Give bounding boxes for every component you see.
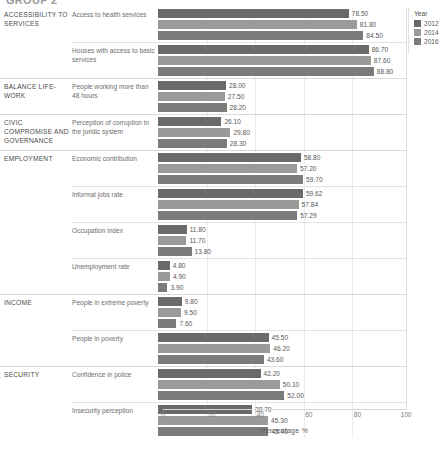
bar-2012[interactable] xyxy=(158,225,187,234)
bar-group: 78.5081.8084.50 xyxy=(158,7,406,42)
bar-2012[interactable] xyxy=(158,369,261,378)
bar-2014[interactable] xyxy=(158,20,357,29)
bar-row[interactable]: 28.00 xyxy=(158,80,406,90)
x-axis-tick: 40 xyxy=(257,411,264,418)
bar-row[interactable]: 84.50 xyxy=(158,30,406,40)
bar-2014[interactable] xyxy=(158,200,299,209)
bar-row[interactable]: 7.60 xyxy=(158,318,406,328)
legend-item-2014[interactable]: 2014 xyxy=(414,29,439,36)
bar-2012[interactable] xyxy=(158,81,226,90)
bar-value-label: 28.00 xyxy=(229,82,246,89)
bar-2016[interactable] xyxy=(158,175,303,184)
x-axis-tick: 80 xyxy=(354,411,361,418)
indicator-row: Confidence in police42.2050.1052.00 xyxy=(72,367,406,402)
dimension-group: ACCESSIBILITY TO SERVICESAccess to healt… xyxy=(0,7,406,78)
bar-row[interactable]: 11.80 xyxy=(158,224,406,234)
bar-row[interactable]: 26.10 xyxy=(158,116,406,126)
bar-2012[interactable] xyxy=(158,333,269,342)
bar-row[interactable]: 58.80 xyxy=(158,152,406,162)
legend-swatch-icon xyxy=(414,38,421,45)
bar-row[interactable]: 4.80 xyxy=(158,260,406,270)
indicator-row: People in extreme poverty9.809.507.60 xyxy=(72,295,406,330)
indicator-label: Confidence in police xyxy=(72,367,158,402)
bar-2016[interactable] xyxy=(158,139,227,148)
bar-2014[interactable] xyxy=(158,56,371,65)
bar-row[interactable]: 9.80 xyxy=(158,296,406,306)
dimension-label: INCOME xyxy=(0,295,72,366)
bar-row[interactable]: 50.10 xyxy=(158,379,406,389)
bar-row[interactable]: 28.30 xyxy=(158,138,406,148)
bar-row[interactable]: 28.20 xyxy=(158,102,406,112)
bar-row[interactable]: 4.90 xyxy=(158,271,406,281)
bar-row[interactable]: 81.80 xyxy=(158,19,406,29)
indicator-label: People in extreme poverty xyxy=(72,295,158,330)
indicator-row: Access to health services78.5081.8084.50 xyxy=(72,7,406,42)
indicator-label: Informal jobs rate xyxy=(72,187,158,222)
bar-2014[interactable] xyxy=(158,236,186,245)
bar-2016[interactable] xyxy=(158,283,167,292)
bar-row[interactable]: 11.70 xyxy=(158,235,406,245)
bar-value-label: 84.50 xyxy=(366,32,383,39)
bar-row[interactable]: 59.70 xyxy=(158,174,406,184)
dimension-label: BALANCE LIFE-WORK xyxy=(0,79,72,114)
bar-2016[interactable] xyxy=(158,211,297,220)
bar-2016[interactable] xyxy=(158,31,363,40)
bar-2016[interactable] xyxy=(158,67,374,76)
x-axis: 020406080100 xyxy=(163,411,406,423)
bar-row[interactable]: 3.90 xyxy=(158,282,406,292)
bar-2012[interactable] xyxy=(158,153,301,162)
bar-row[interactable]: 88.80 xyxy=(158,66,406,76)
bar-row[interactable]: 43.60 xyxy=(158,354,406,364)
bar-2014[interactable] xyxy=(158,380,280,389)
indicator-label: Economic contribution xyxy=(72,151,158,186)
bar-2014[interactable] xyxy=(158,272,170,281)
bar-2014[interactable] xyxy=(158,164,297,173)
bar-2012[interactable] xyxy=(158,117,221,126)
bar-row[interactable]: 13.80 xyxy=(158,246,406,256)
bar-row[interactable]: 57.20 xyxy=(158,163,406,173)
bar-row[interactable]: 86.70 xyxy=(158,44,406,54)
indicator-label: Unemployment rate xyxy=(72,259,158,294)
dimension-label: SECURITY xyxy=(0,367,72,438)
dimension-label: CIVIC COMPROMISE AND GOVERNANCE xyxy=(0,115,72,150)
bar-row[interactable]: 87.60 xyxy=(158,55,406,65)
indicator-label: People working more than 48 hours xyxy=(72,79,158,114)
legend-item-2012[interactable]: 2012 xyxy=(414,20,439,27)
bar-2016[interactable] xyxy=(158,103,227,112)
indicator-row: Informal jobs rate59.6257.8457.29 xyxy=(72,186,406,222)
bar-2012[interactable] xyxy=(158,261,170,270)
bar-2012[interactable] xyxy=(158,189,303,198)
bar-2016[interactable] xyxy=(158,391,284,400)
bar-2014[interactable] xyxy=(158,92,225,101)
bar-value-label: 4.90 xyxy=(173,273,186,280)
bar-value-label: 78.50 xyxy=(352,10,369,17)
bar-2014[interactable] xyxy=(158,308,181,317)
bar-group: 9.809.507.60 xyxy=(158,295,406,330)
bar-group: 58.8057.2059.70 xyxy=(158,151,406,186)
bar-group: 42.2050.1052.00 xyxy=(158,367,406,402)
bar-row[interactable]: 45.50 xyxy=(158,332,406,342)
bar-2016[interactable] xyxy=(158,319,176,328)
bar-group: 28.0027.5028.20 xyxy=(158,79,406,114)
bar-2012[interactable] xyxy=(158,9,349,18)
bar-2014[interactable] xyxy=(158,344,270,353)
bar-row[interactable]: 42.20 xyxy=(158,368,406,378)
bar-2012[interactable] xyxy=(158,45,369,54)
bar-row[interactable]: 57.84 xyxy=(158,199,406,209)
bar-2014[interactable] xyxy=(158,128,230,137)
bar-2012[interactable] xyxy=(158,297,182,306)
bar-2016[interactable] xyxy=(158,247,192,256)
legend-title: Year xyxy=(414,10,439,17)
indicator-label: Perception of corruption in the juridic … xyxy=(72,115,158,150)
bar-row[interactable]: 78.50 xyxy=(158,8,406,18)
bar-value-label: 57.20 xyxy=(300,165,317,172)
bar-row[interactable]: 57.29 xyxy=(158,210,406,220)
bar-2016[interactable] xyxy=(158,355,264,364)
bar-row[interactable]: 46.20 xyxy=(158,343,406,353)
bar-row[interactable]: 29.80 xyxy=(158,127,406,137)
bar-row[interactable]: 27.50 xyxy=(158,91,406,101)
bar-row[interactable]: 59.62 xyxy=(158,188,406,198)
bar-row[interactable]: 52.00 xyxy=(158,390,406,400)
legend-item-2016[interactable]: 2016 xyxy=(414,38,439,45)
bar-row[interactable]: 9.50 xyxy=(158,307,406,317)
